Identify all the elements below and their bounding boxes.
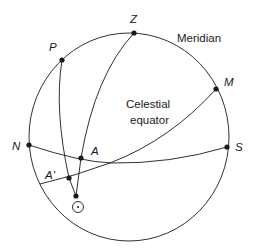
label-p: P: [49, 41, 57, 53]
point-n: [26, 142, 31, 147]
label-s: S: [235, 141, 243, 153]
point-a-prime: [66, 175, 71, 180]
point-m: [213, 86, 218, 91]
meridian-circle: [29, 33, 229, 241]
label-celestial: Celestial: [126, 98, 170, 110]
point-s: [224, 144, 229, 149]
label-meridian: Meridian: [177, 32, 221, 44]
label-m: M: [224, 76, 234, 88]
label-a-prime: A': [44, 169, 56, 181]
label-z: Z: [129, 13, 138, 25]
celestial-sphere-diagram: Z P M N S A A' Meridian Celestial equato…: [0, 0, 258, 248]
point-z: [131, 30, 136, 35]
point-sun-position: [73, 193, 78, 198]
point-p: [59, 57, 64, 62]
label-a: A: [90, 145, 99, 157]
point-a: [78, 155, 83, 160]
label-n: N: [12, 140, 21, 152]
sun-symbol-icon: [73, 202, 84, 213]
label-equator: equator: [130, 114, 169, 126]
horizon-line: [29, 145, 227, 163]
